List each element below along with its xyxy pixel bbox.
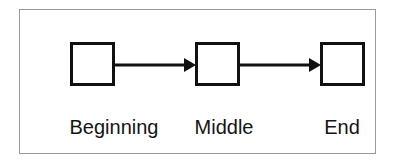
node-box-middle[interactable] [195,42,240,86]
node-label-end: End [302,114,382,140]
diagram-frame: Beginning Middle End [19,9,376,154]
arrow-right-icon [240,56,321,74]
diagram-screenshot: Beginning Middle End [0,0,396,163]
arrow-beginning-to-middle [115,56,196,74]
node-box-end[interactable] [320,42,365,86]
node-label-middle: Middle [174,114,274,140]
arrow-middle-to-end [240,56,321,74]
node-box-beginning[interactable] [70,42,115,86]
node-label-beginning: Beginning [54,114,174,140]
arrow-right-icon [115,56,196,74]
